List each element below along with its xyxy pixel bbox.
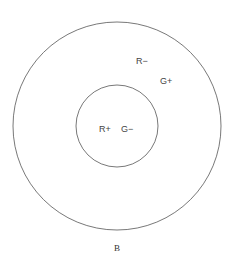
label-inner-r: R+ (99, 124, 111, 134)
concentric-circle-diagram: R− G+ R+ G− B (0, 0, 229, 276)
label-outer-r: R− (136, 56, 148, 66)
label-outer-g: G+ (160, 76, 172, 86)
inner-circle (76, 85, 158, 167)
label-bottom-b: B (114, 243, 120, 253)
outer-circle (13, 22, 221, 230)
label-inner-g: G− (121, 124, 133, 134)
